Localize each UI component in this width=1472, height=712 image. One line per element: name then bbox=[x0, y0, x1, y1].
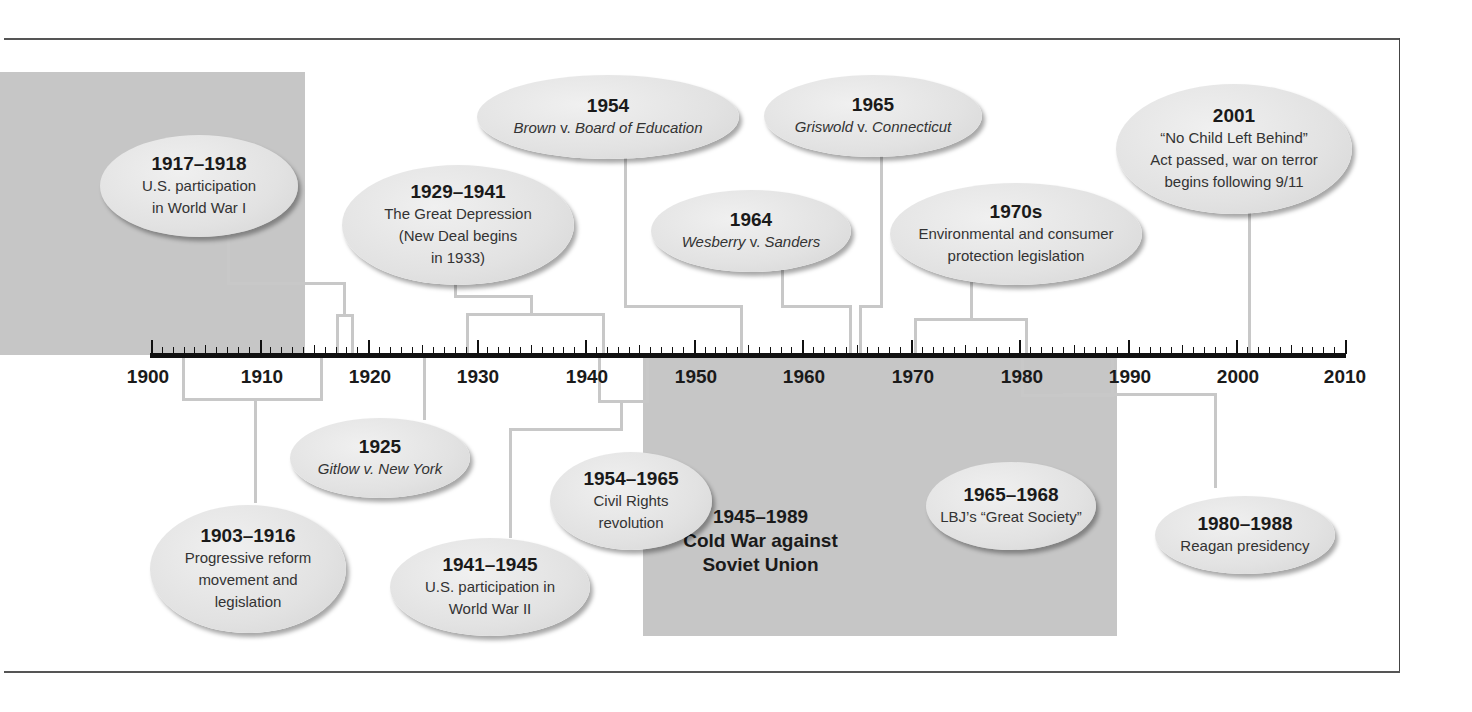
axis-tick bbox=[1323, 347, 1324, 354]
event-text: (New Deal begins bbox=[399, 225, 517, 247]
event-date: 1917–1918 bbox=[151, 153, 246, 175]
axis-tick bbox=[878, 347, 879, 354]
axis-tick bbox=[314, 345, 315, 354]
axis-tick bbox=[1345, 340, 1347, 354]
event-bubble-wesberry-v-sanders: 1964 Wesberry v. Sanders bbox=[651, 190, 851, 272]
axis-tick bbox=[336, 347, 337, 354]
axis-label-1900: 1900 bbox=[127, 366, 169, 388]
axis-tick bbox=[629, 347, 630, 354]
case-versus: v. bbox=[556, 119, 575, 136]
axis-tick bbox=[943, 347, 944, 354]
case-party: Gitlow bbox=[318, 460, 360, 477]
axis-tick bbox=[173, 347, 174, 354]
axis-tick bbox=[238, 347, 239, 354]
axis-tick bbox=[715, 347, 716, 354]
axis-tick bbox=[1063, 347, 1064, 354]
axis-tick bbox=[270, 347, 271, 354]
axis-tick bbox=[466, 347, 467, 354]
axis-tick bbox=[1291, 345, 1292, 354]
event-text: in 1933) bbox=[431, 247, 485, 269]
event-date: 1941–1945 bbox=[442, 554, 537, 576]
axis-tick bbox=[292, 347, 293, 354]
event-text: begins following 9/11 bbox=[1165, 171, 1304, 193]
event-bubble-great-society: 1965–1968 LBJ’s “Great Society” bbox=[926, 462, 1096, 550]
axis-tick bbox=[184, 347, 185, 354]
event-text: movement and bbox=[198, 569, 297, 591]
event-text: Progressive reform bbox=[185, 547, 312, 569]
axis-tick bbox=[249, 347, 250, 354]
axis-tick bbox=[1106, 347, 1107, 354]
frame-bottom-rule bbox=[4, 671, 1400, 673]
case-party: Griswold bbox=[795, 118, 853, 135]
event-text: Civil Rights bbox=[593, 490, 668, 512]
axis-tick bbox=[1128, 340, 1130, 354]
axis-tick bbox=[748, 345, 749, 354]
axis-tick bbox=[1052, 347, 1053, 354]
axis-tick bbox=[194, 347, 195, 354]
axis-tick bbox=[1193, 347, 1194, 354]
event-bubble-civil-rights: 1954–1965 Civil Rights revolution bbox=[550, 452, 712, 550]
axis-tick bbox=[694, 340, 696, 354]
axis-tick bbox=[412, 347, 413, 354]
axis-tick bbox=[954, 347, 955, 354]
event-date: 1903–1916 bbox=[200, 525, 295, 547]
case-party: New York bbox=[378, 460, 442, 477]
event-text: “No Child Left Behind” bbox=[1160, 127, 1308, 149]
event-bubble-griswold-v-connecticut: 1965 Griswold v. Connecticut bbox=[764, 75, 982, 157]
event-bubble-progressive-reform: 1903–1916 Progressive reform movement an… bbox=[150, 505, 346, 633]
axis-tick bbox=[1215, 347, 1216, 354]
event-date: 1954 bbox=[587, 95, 629, 117]
case-party: Board of Education bbox=[575, 119, 703, 136]
event-bubble-wwi: 1917–1918 U.S. participation in World Wa… bbox=[100, 135, 298, 237]
event-text: U.S. participation in bbox=[425, 576, 555, 598]
axis-label-1910: 1910 bbox=[241, 366, 283, 388]
case-party: Sanders bbox=[764, 233, 820, 250]
axis-tick bbox=[911, 340, 913, 354]
axis-tick bbox=[422, 345, 423, 354]
axis-tick bbox=[791, 347, 792, 354]
axis-tick bbox=[205, 345, 206, 354]
axis-tick bbox=[824, 347, 825, 354]
axis-label-1960: 1960 bbox=[783, 366, 825, 388]
axis-label-2000: 2000 bbox=[1217, 366, 1259, 388]
axis-tick bbox=[1280, 347, 1281, 354]
axis-tick bbox=[1182, 345, 1183, 354]
axis-tick bbox=[260, 340, 262, 354]
axis-label-1950: 1950 bbox=[675, 366, 717, 388]
axis-tick bbox=[618, 347, 619, 354]
axis-tick bbox=[531, 345, 532, 354]
event-text: in World War I bbox=[152, 197, 246, 219]
event-bubble-1970s-legislation: 1970s Environmental and consumer protect… bbox=[890, 183, 1142, 285]
cold-war-line2: Soviet Union bbox=[643, 553, 878, 577]
axis-tick bbox=[444, 347, 445, 354]
axis-tick bbox=[759, 347, 760, 354]
frame-top-rule bbox=[4, 38, 1400, 40]
axis-tick bbox=[1019, 340, 1021, 354]
axis-tick bbox=[498, 347, 499, 354]
event-text: U.S. participation bbox=[142, 175, 256, 197]
axis-tick bbox=[781, 347, 782, 354]
event-text: protection legislation bbox=[948, 245, 1085, 267]
axis-tick bbox=[151, 340, 153, 354]
axis-tick bbox=[835, 347, 836, 354]
event-date: 1929–1941 bbox=[410, 181, 505, 203]
axis-tick bbox=[1171, 347, 1172, 354]
axis-tick bbox=[672, 347, 673, 354]
axis-tick bbox=[379, 347, 380, 354]
event-date: 1925 bbox=[359, 436, 401, 458]
axis-tick bbox=[1312, 347, 1313, 354]
axis-tick bbox=[281, 347, 282, 354]
axis-tick bbox=[303, 347, 304, 354]
axis-tick bbox=[705, 347, 706, 354]
axis-tick bbox=[563, 347, 564, 354]
case-versus: v. bbox=[853, 118, 872, 135]
event-text: World War II bbox=[449, 598, 532, 620]
axis-tick bbox=[1302, 347, 1303, 354]
axis-tick bbox=[726, 347, 727, 354]
axis-tick bbox=[1009, 347, 1010, 354]
axis-tick bbox=[1160, 347, 1161, 354]
axis-label-1920: 1920 bbox=[349, 366, 391, 388]
event-bubble-reagan-presidency: 1980–1988 Reagan presidency bbox=[1155, 496, 1335, 574]
axis-tick bbox=[661, 347, 662, 354]
axis-tick bbox=[867, 347, 868, 354]
